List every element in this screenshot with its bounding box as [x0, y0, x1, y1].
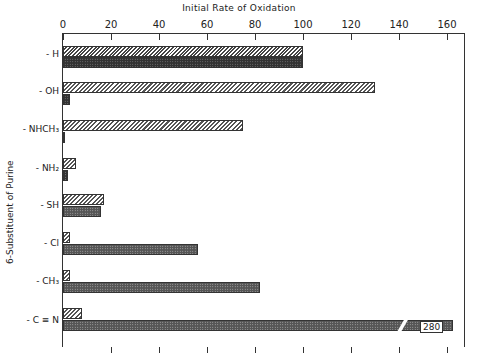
x-tick-label: 0: [60, 19, 66, 30]
x-tick: [351, 33, 352, 40]
plot-area: 0 20 40 60 80 100 120 140 160 6-Substitu…: [62, 33, 465, 347]
x-tick-bottom: [447, 347, 448, 353]
x-tick-bottom: [111, 347, 112, 353]
bar-crosshatched: [63, 170, 68, 181]
x-tick-label: 60: [201, 19, 214, 30]
bar-hatched: [63, 46, 303, 57]
y-axis-title: 6-Substituent of Purine: [5, 160, 15, 264]
category-label: - OH: [13, 86, 59, 96]
x-tick-bottom: [351, 347, 352, 353]
x-tick-label: 20: [105, 19, 118, 30]
x-tick: [255, 33, 256, 40]
x-tick: [207, 33, 208, 40]
bar-hatched: [63, 194, 104, 205]
category-label: - CH₃: [13, 276, 59, 286]
break-value-label: 280: [420, 321, 443, 333]
x-tick-bottom: [399, 347, 400, 353]
bar-crosshatched: [63, 282, 260, 293]
x-tick-label: 140: [389, 19, 408, 30]
bar-crosshatched: [63, 206, 101, 217]
bar-hatched: [63, 232, 70, 243]
x-tick: [447, 33, 448, 40]
bar-hatched: [63, 270, 70, 281]
bar-hatched: [63, 82, 375, 93]
category-label: - H: [13, 49, 59, 59]
bar-crosshatched-broken: [63, 320, 453, 331]
category-label: - C ≡ N: [13, 315, 59, 325]
x-tick-bottom: [207, 347, 208, 353]
x-tick-bottom: [303, 347, 304, 353]
category-label: - NH₂: [13, 163, 59, 173]
bar-crosshatched: [63, 57, 303, 68]
bar-crosshatched: [63, 94, 70, 105]
x-tick: [111, 33, 112, 40]
x-tick: [303, 33, 304, 40]
bar-hatched: [63, 308, 82, 319]
x-tick-label: 120: [341, 19, 360, 30]
x-tick: [63, 33, 64, 40]
chart-title: Initial Rate of Oxidation: [0, 3, 478, 13]
x-tick: [159, 33, 160, 40]
bar-hatched: [63, 158, 76, 169]
bar-crosshatched: [63, 132, 65, 143]
category-label: - Cl: [13, 238, 59, 248]
category-label: - NHCH₃: [13, 124, 59, 134]
bar-hatched: [63, 120, 243, 131]
x-tick: [399, 33, 400, 40]
bar-crosshatched: [63, 244, 198, 255]
x-tick-label: 100: [293, 19, 312, 30]
x-tick-bottom: [255, 347, 256, 353]
category-label: - SH: [13, 200, 59, 210]
x-tick-label: 40: [153, 19, 166, 30]
x-tick-label: 160: [437, 19, 456, 30]
x-tick-label: 80: [249, 19, 262, 30]
x-tick-bottom: [159, 347, 160, 353]
